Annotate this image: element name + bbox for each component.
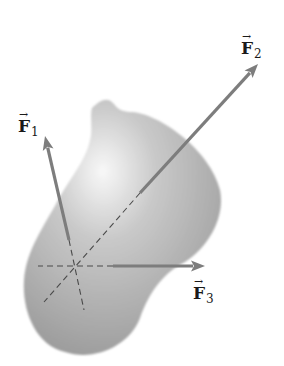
force-subscript: 2	[254, 47, 262, 61]
force-label-f1: →F1	[18, 118, 39, 135]
force-label-f2: →F2	[241, 40, 262, 57]
arrowhead-icon	[191, 261, 205, 272]
vector-arrow-icon: →	[242, 31, 251, 42]
force-subscript: 3	[206, 292, 214, 306]
force-subscript: 1	[31, 125, 39, 139]
vector-arrow-icon: →	[194, 276, 203, 287]
force-label-f3: →F3	[193, 285, 214, 302]
vector-arrow-icon: →	[19, 109, 28, 120]
